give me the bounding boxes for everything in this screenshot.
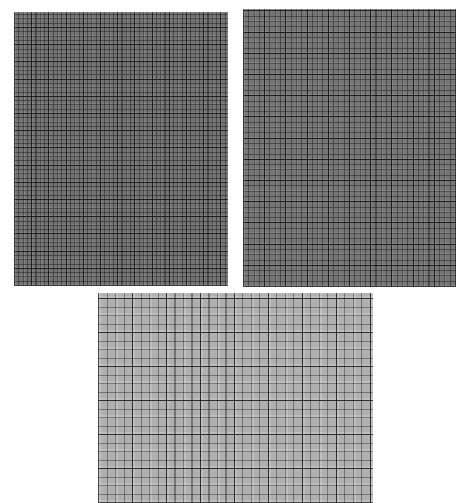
grid-panel-top-left	[14, 12, 228, 286]
panel-edge-feather	[14, 12, 228, 286]
panel-edge-feather	[243, 9, 456, 287]
grid-panel-bottom-center	[98, 293, 373, 503]
grid-panel-top-right	[243, 9, 456, 287]
panel-edge-feather	[98, 293, 373, 503]
figure-root	[0, 0, 463, 503]
